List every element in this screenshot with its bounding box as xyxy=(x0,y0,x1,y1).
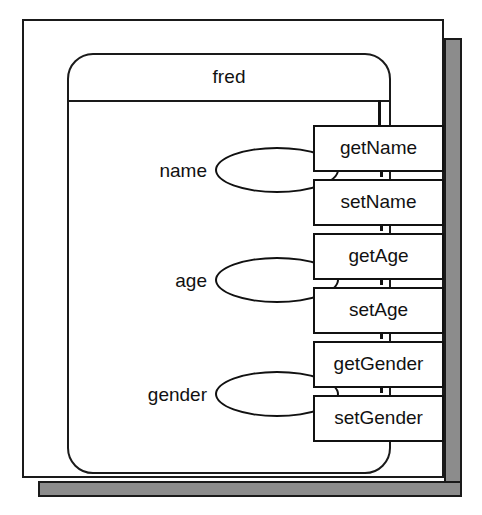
method-label-get-age: getAge xyxy=(348,246,408,267)
object-name-band: fred xyxy=(69,55,389,102)
frame-shadow-bottom xyxy=(38,481,462,497)
frame-shadow-right xyxy=(444,38,462,497)
method-connector-top xyxy=(378,100,381,126)
method-connector xyxy=(380,224,383,231)
attribute-label-name: name xyxy=(109,161,215,180)
method-label-set-name: setName xyxy=(340,192,416,213)
method-box-get-age[interactable]: getAge xyxy=(313,233,444,280)
method-connector xyxy=(380,278,383,285)
method-label-set-age: setAge xyxy=(349,300,408,321)
method-label-get-gender: getGender xyxy=(334,354,424,375)
method-box-set-age[interactable]: setAge xyxy=(313,287,444,334)
object-diagram-canvas: fred name age gender getName xyxy=(0,0,482,515)
attribute-label-age: age xyxy=(109,271,215,290)
method-box-get-gender[interactable]: getGender xyxy=(313,341,444,388)
method-label-get-name: getName xyxy=(340,138,417,159)
attribute-label-gender: gender xyxy=(109,385,215,404)
method-connector xyxy=(380,386,383,393)
outer-frame: fred name age gender getName xyxy=(22,19,444,478)
method-connector xyxy=(380,332,383,339)
method-box-set-name[interactable]: setName xyxy=(313,179,444,226)
object-name-label: fred xyxy=(212,67,245,88)
method-connector xyxy=(380,170,383,177)
method-stack: getName setName getAge setAge getGender xyxy=(313,125,444,442)
method-label-set-gender: setGender xyxy=(334,408,423,429)
method-box-set-gender[interactable]: setGender xyxy=(313,395,444,442)
method-box-get-name[interactable]: getName xyxy=(313,125,444,172)
